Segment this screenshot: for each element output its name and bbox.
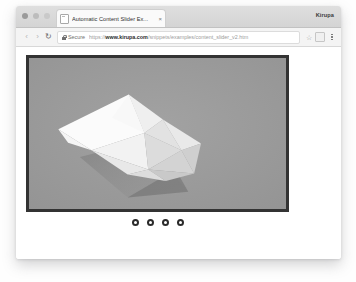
pager-dot-4[interactable] <box>177 219 184 226</box>
tab-favicon-icon <box>60 14 69 24</box>
traffic-light-group <box>22 13 50 19</box>
bookmark-star-icon[interactable]: ☆ <box>306 34 312 41</box>
security-label: Secure <box>68 34 85 40</box>
reload-button[interactable]: ↻ <box>43 33 54 41</box>
maximize-window-button[interactable] <box>44 13 50 19</box>
browser-tab[interactable]: Automatic Content Slider Ex... × <box>56 9 166 27</box>
back-button[interactable]: ‹ <box>21 33 32 41</box>
url-host: www.kirupa.com <box>105 34 148 40</box>
window-titlebar: Automatic Content Slider Ex... × Kirupa <box>16 6 341 28</box>
slider-slide-1 <box>29 58 286 209</box>
window-user-label: Kirupa <box>316 12 334 18</box>
forward-button[interactable]: › <box>32 33 43 41</box>
url-path: /snippets/examples/content_slider_v2.htm <box>148 34 248 40</box>
url-scheme: https:// <box>89 34 105 40</box>
profile-icon[interactable] <box>315 32 325 42</box>
slider-pager <box>26 219 289 226</box>
tab-close-icon[interactable]: × <box>156 16 162 22</box>
browser-toolbar: ‹ › ↻ Secure https://www.kirupa.com/snip… <box>16 28 341 47</box>
pager-dot-2[interactable] <box>147 219 154 226</box>
pager-dot-1[interactable] <box>132 219 139 226</box>
url-text: https://www.kirupa.com/snippets/examples… <box>89 34 295 40</box>
lock-icon <box>62 35 66 40</box>
pager-dot-3[interactable] <box>162 219 169 226</box>
content-slider[interactable] <box>26 55 289 212</box>
tab-title: Automatic Content Slider Ex... <box>72 16 156 22</box>
polyhedron-artwork <box>29 58 286 209</box>
close-window-button[interactable] <box>22 13 28 19</box>
kebab-menu-icon[interactable] <box>328 34 336 40</box>
address-bar[interactable]: Secure https://www.kirupa.com/snippets/e… <box>57 31 300 44</box>
browser-window: Automatic Content Slider Ex... × Kirupa … <box>16 6 341 259</box>
page-content <box>16 47 341 259</box>
minimize-window-button[interactable] <box>33 13 39 19</box>
